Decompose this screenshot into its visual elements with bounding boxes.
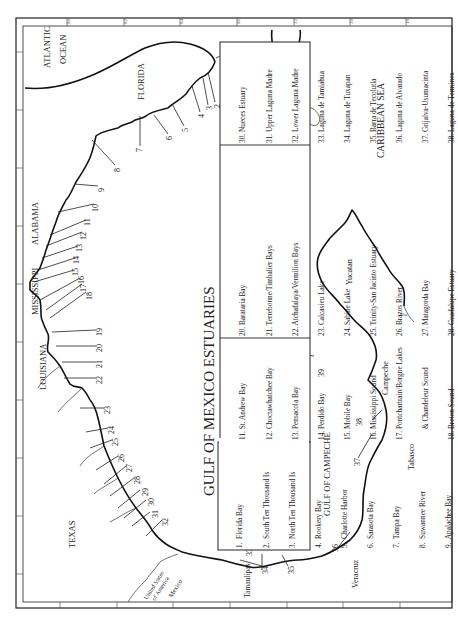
- svg-text:19: 19: [95, 328, 104, 336]
- legend-item: 38. Laguna de Terminos: [448, 43, 457, 143]
- legend-item: 4. Rookery Bay: [315, 444, 324, 548]
- svg-text:9: 9: [97, 188, 106, 192]
- svg-text:20: 20: [349, 19, 354, 25]
- legend-item: 11. St. Andrew Bay: [239, 330, 248, 440]
- atlantic-coast: [25, 42, 215, 89]
- legend-item: 27. Matagorda Bay: [422, 216, 431, 336]
- svg-text:17: 17: [79, 284, 88, 292]
- svg-text:29: 29: [141, 488, 150, 496]
- legend-item: 2. South Ten Thousand Is: [263, 444, 272, 548]
- legend-item: 9. Apalachee Bay: [445, 444, 454, 548]
- svg-text:84: 84: [179, 19, 184, 25]
- legend-item: 35. Barra de Tecolutla: [370, 43, 379, 143]
- legend-item: 30. Nueces Estuary: [239, 43, 248, 143]
- label-ocean: OCEAN: [58, 35, 68, 64]
- svg-text:35: 35: [287, 566, 296, 574]
- svg-text:34: 34: [261, 566, 270, 574]
- label-tamaulipas: Tamaulipas: [243, 563, 252, 598]
- svg-text:86: 86: [236, 19, 241, 25]
- svg-text:22: 22: [293, 19, 298, 25]
- svg-text:18: 18: [405, 19, 410, 25]
- gulf-estuaries-map: 80 82 84 86 22 20 18: [0, 0, 458, 632]
- legend-item: 16. Mississippi Sound: [370, 330, 379, 440]
- legend-item: 26. Brazos River: [396, 216, 405, 336]
- svg-text:5: 5: [181, 128, 190, 132]
- legend-item: 5. Charlotte Harbor: [341, 444, 350, 548]
- svg-text:16: 16: [77, 276, 86, 284]
- svg-text:13: 13: [75, 244, 84, 252]
- legend-item: 24. Sabine Lake: [344, 216, 353, 336]
- svg-text:11: 11: [83, 218, 92, 226]
- left-graticule: [16, 52, 23, 574]
- legend-item: 36. Laguna de Alvarado: [396, 43, 405, 143]
- svg-text:27: 27: [125, 464, 134, 472]
- label-florida: FLORIDA: [136, 62, 146, 100]
- legend-column-4: 30. Nueces Estuary 31. Upper Laguna Madr…: [222, 43, 311, 143]
- legend-item: 33. Laguna de Tamiahua: [318, 43, 327, 143]
- svg-text:14: 14: [72, 256, 81, 264]
- label-alabama: ALABAMA: [30, 201, 40, 245]
- legend-item: 18. Breton Sound: [448, 330, 457, 440]
- svg-text:28: 28: [133, 476, 142, 484]
- legend-item: 20. Barataria Bay: [239, 216, 248, 336]
- legend-item: 15. Mobile Bay: [344, 330, 353, 440]
- svg-text:18: 18: [85, 292, 94, 300]
- legend-item: 14. Perdido Bay: [318, 330, 327, 440]
- svg-text:21: 21: [95, 360, 104, 368]
- legend-item: 23. Calcasieu Lake: [318, 216, 327, 336]
- legend-item: 8. Suwannee River: [419, 444, 428, 548]
- legend-item: 32. Lower Laguna Madre: [292, 43, 301, 143]
- legend-item: 12. Choctawhatchee Bay: [266, 330, 275, 440]
- florida-gulf-coast: [46, 62, 215, 250]
- legend-item: 37. Grijalva-Usumacinta: [422, 43, 431, 143]
- svg-text:10: 10: [91, 204, 100, 212]
- svg-text:8: 8: [113, 168, 122, 172]
- svg-text:82: 82: [123, 19, 128, 25]
- svg-text:7: 7: [135, 148, 144, 152]
- label-louisiana: LOUISIANA: [38, 343, 48, 390]
- legend-item: 6. Sarasota Bay: [367, 444, 376, 548]
- legend-item: 7. Tampa Bay: [393, 444, 402, 548]
- rivers: [38, 366, 136, 522]
- legend-item: 22. Atchafalaya/Vermilion Bays: [292, 216, 301, 336]
- svg-text:25: 25: [111, 438, 120, 446]
- label-mississippi: MISSISSIPPI: [30, 268, 40, 315]
- legend-item: 3. North Ten Thousand Is: [289, 444, 298, 548]
- svg-text:26: 26: [117, 454, 126, 462]
- legend-item: 34. Laguna de Tuxapan: [344, 43, 353, 143]
- svg-text:30: 30: [147, 498, 156, 506]
- legend-column-3: 20. Barataria Bay 21. Terrebonne/Timbali…: [222, 216, 311, 336]
- legend-item: & Chandeleur Sound: [422, 330, 431, 440]
- svg-text:15: 15: [71, 268, 80, 276]
- legend-item: 17. Pontchartrain/Borgne Lakes: [396, 330, 405, 440]
- legend-item: 28. Guadalupe Estuary: [448, 216, 457, 336]
- svg-text:20: 20: [95, 344, 104, 352]
- svg-text:22: 22: [95, 376, 104, 384]
- svg-text:6: 6: [165, 136, 174, 140]
- label-texas: TEXAS: [67, 520, 77, 548]
- label-atlantic: ATLANTIC: [42, 26, 52, 68]
- legend-item: 31. Upper Laguna Madre: [266, 43, 275, 143]
- legend-item: 25. Trinity-San Jacinto Estuary: [370, 216, 379, 336]
- svg-text:4: 4: [197, 114, 206, 118]
- legend-item: 21. Terrebonne/Timbalier Bays: [266, 216, 275, 336]
- bottom-graticule: [60, 602, 400, 608]
- svg-text:23: 23: [103, 406, 112, 414]
- map-title: GULF OF MEXICO ESTUARIES: [201, 286, 217, 496]
- top-graticule: 80 82 84 86 22 20 18: [66, 18, 410, 26]
- legend-item: 1. Florida Bay: [236, 444, 245, 548]
- svg-text:24: 24: [107, 426, 116, 434]
- label-mexico: Mexico: [167, 578, 183, 599]
- legend-column-1: 1. Florida Bay 2. South Ten Thousand Is …: [219, 444, 308, 548]
- svg-text:80: 80: [66, 19, 71, 25]
- svg-text:3: 3: [205, 106, 214, 110]
- svg-text:32: 32: [161, 518, 170, 526]
- svg-text:12: 12: [79, 232, 88, 240]
- texas-coast: [90, 400, 182, 552]
- svg-text:31: 31: [151, 510, 160, 518]
- legend-item: 13. Pensacola Bay: [292, 330, 301, 440]
- legend-column-2: 11. St. Andrew Bay 12. Choctawhatchee Ba…: [222, 330, 311, 440]
- label-veracruz: Veracruz: [351, 559, 360, 588]
